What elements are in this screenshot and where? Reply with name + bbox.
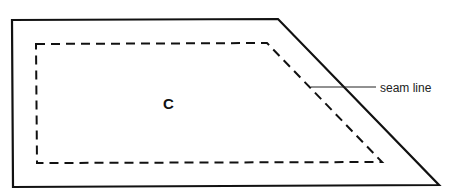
seam-line-dashed [36, 43, 382, 163]
piece-label: C [163, 95, 174, 112]
pattern-piece-diagram: C seam line [0, 0, 449, 192]
seam-line-label: seam line [380, 81, 432, 95]
cutting-edge-outline [12, 19, 439, 187]
